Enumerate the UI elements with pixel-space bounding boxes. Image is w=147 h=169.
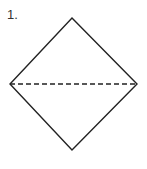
diamond-diagram [0, 0, 147, 169]
